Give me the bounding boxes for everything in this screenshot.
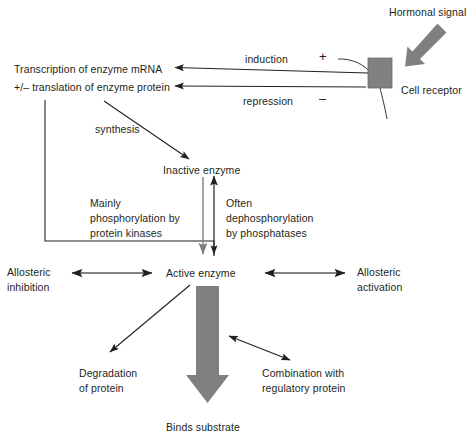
repression-sign-label: – <box>319 92 326 106</box>
hormonal-signal-label: Hormonal signal <box>389 5 466 19</box>
induction-sign-label: + <box>319 50 327 64</box>
allosteric-activation-line1-label: Allosteric <box>357 265 401 279</box>
mainly-line2-label: phosphorylation by <box>90 211 180 225</box>
induction-arrow <box>175 68 368 74</box>
cell-receptor-box <box>368 58 392 88</box>
active-enzyme-label: Active enzyme <box>166 266 236 280</box>
binds-substrate-label: Binds substrate <box>166 420 240 434</box>
degradation-line1-label: Degradation <box>79 366 137 380</box>
allosteric-activation-line2-label: activation <box>357 280 402 294</box>
allosteric-inhibition-line1-label: Allosteric <box>7 265 51 279</box>
often-line3-label: by phosphatases <box>226 226 307 240</box>
enzyme-regulation-diagram: Hormonal signal Cell receptor induction … <box>0 0 469 435</box>
allosteric-inhibition-line2-label: inhibition <box>7 280 49 294</box>
hormonal-signal-arrow <box>405 24 447 67</box>
transcription-line1-label: Transcription of enzyme mRNA <box>14 62 162 76</box>
often-line2-label: dephosphorylation <box>226 211 314 225</box>
mainly-line3-label: protein kinases <box>90 226 162 240</box>
mainly-line1-label: Mainly <box>90 196 121 210</box>
repression-arrow <box>175 86 366 87</box>
repression-label: repression <box>243 94 293 108</box>
combination-line2-label: regulatory protein <box>262 381 346 395</box>
combination-regulatory-protein-arrow <box>229 336 290 360</box>
transcription-line2-label: +/– translation of enzyme protein <box>14 80 170 94</box>
often-line1-label: Often <box>226 196 252 210</box>
synthesis-label: synthesis <box>95 122 140 136</box>
degradation-arrow <box>110 285 190 352</box>
degradation-line2-label: of protein <box>79 381 124 395</box>
inactive-enzyme-label: Inactive enzyme <box>163 163 240 177</box>
cell-receptor-label: Cell receptor <box>401 83 462 97</box>
induction-label: induction <box>245 52 288 66</box>
binds-substrate-block-arrow <box>186 286 229 403</box>
combination-line1-label: Combination with <box>262 366 344 380</box>
